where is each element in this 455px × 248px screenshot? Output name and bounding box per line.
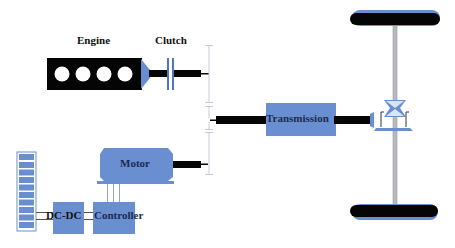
battery-pack bbox=[17, 152, 36, 231]
motor-controller-wires bbox=[107, 184, 120, 202]
wheel-top bbox=[350, 10, 440, 26]
engine-label: Engine bbox=[77, 34, 110, 46]
wheel-bottom bbox=[350, 204, 438, 220]
clutch-plates bbox=[167, 58, 174, 90]
dcdc-label: DC-DC bbox=[46, 209, 81, 221]
clutch-shaft bbox=[174, 70, 201, 77]
engine-shaft bbox=[149, 70, 168, 77]
controller-label: Controller bbox=[94, 209, 143, 221]
clutch-label: Clutch bbox=[155, 34, 187, 46]
transmission-label: Transmission bbox=[266, 112, 329, 124]
motor-shaft bbox=[173, 161, 201, 168]
gear-coupling bbox=[205, 45, 213, 175]
transmission-input-shaft bbox=[216, 116, 268, 124]
transmission-output-shaft bbox=[334, 116, 371, 124]
dcdc-controller-wires bbox=[84, 212, 94, 220]
motor-label: Motor bbox=[120, 157, 150, 169]
engine-block bbox=[47, 58, 150, 90]
